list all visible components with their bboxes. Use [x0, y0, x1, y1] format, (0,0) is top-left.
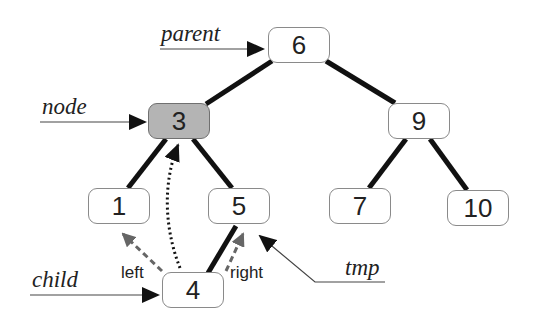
- tree-node-5: 5: [208, 188, 270, 224]
- pointer-label-tmp: tmp: [345, 255, 380, 281]
- edge-9-10: [430, 139, 467, 190]
- node-value: 5: [232, 191, 246, 222]
- node-value: 3: [172, 106, 186, 137]
- pointer-label-parent: parent: [161, 21, 220, 47]
- edge-6-3: [206, 61, 272, 104]
- node-value: 4: [186, 275, 200, 306]
- edge-6-9: [326, 61, 395, 103]
- tree-node-4: 4: [162, 272, 224, 308]
- tree-node-9: 9: [388, 103, 450, 139]
- dotted-arrow-4-to-3: [167, 145, 180, 268]
- edge-3-5: [193, 139, 232, 188]
- tree-node-6: 6: [268, 27, 330, 63]
- edge-label-left: left: [121, 263, 144, 283]
- node-value: 9: [412, 106, 426, 137]
- tree-node-1: 1: [88, 188, 150, 224]
- pointer-label-child: child: [32, 267, 78, 293]
- pointer-label-node: node: [42, 94, 87, 120]
- node-value: 7: [353, 191, 367, 222]
- tree-node-10: 10: [447, 190, 509, 226]
- tree-node-3: 3: [148, 103, 210, 139]
- tree-node-7: 7: [329, 188, 391, 224]
- edge-3-1: [128, 139, 166, 188]
- edge-label-right: right: [230, 263, 263, 283]
- node-value: 10: [464, 193, 493, 224]
- node-value: 1: [112, 191, 126, 222]
- node-value: 6: [292, 30, 306, 61]
- edge-9-7: [369, 139, 406, 188]
